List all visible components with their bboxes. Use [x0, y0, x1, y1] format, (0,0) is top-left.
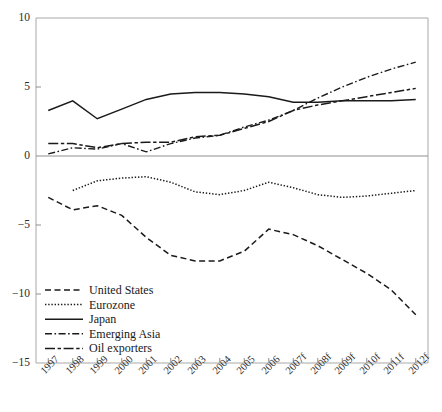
series-line-oil-exporters	[48, 88, 416, 147]
chart-plot-svg	[0, 0, 442, 412]
data-series-layer	[48, 62, 416, 315]
series-line-emerging-asia	[48, 62, 416, 154]
line-chart: 1050−5−10−15 199719981999200020012002200…	[0, 0, 442, 412]
y-tick-label: 5	[2, 81, 30, 93]
series-line-eurozone	[73, 177, 416, 198]
legend-label-emerging-asia: Emerging Asia	[89, 328, 160, 340]
y-tick-label: −15	[2, 357, 30, 369]
legend-label-united-states: United States	[89, 284, 153, 296]
series-line-japan	[48, 93, 416, 119]
legend-label-oil-exporters: Oil exporters	[89, 342, 152, 354]
y-tick-label: 0	[2, 150, 30, 162]
legend-line-samples	[45, 290, 83, 348]
legend-label-japan: Japan	[89, 313, 116, 325]
y-tick-label: −5	[2, 219, 30, 231]
y-tick-label: 10	[2, 12, 30, 24]
y-tick-marks	[36, 87, 41, 294]
legend-label-eurozone: Eurozone	[89, 299, 135, 311]
y-tick-label: −10	[2, 288, 30, 300]
